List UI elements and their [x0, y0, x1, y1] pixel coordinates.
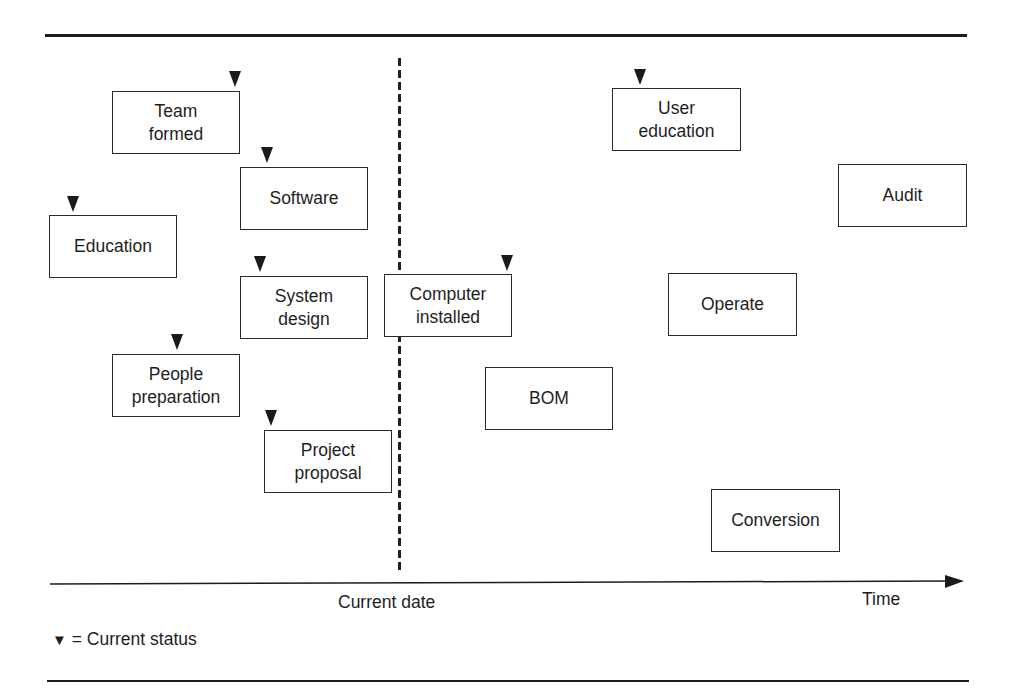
task-box-user-education: User education [612, 88, 741, 151]
task-box-software: Software [240, 167, 368, 230]
current-status-marker-icon [265, 410, 277, 426]
time-arrow-icon [945, 575, 964, 588]
task-box-system-design: System design [240, 276, 368, 339]
time-axis-label: Time [862, 589, 900, 610]
current-date-label: Current date [338, 592, 435, 613]
status-marker-icon: ▼ [52, 631, 67, 648]
task-box-conversion: Conversion [711, 489, 840, 552]
task-box-computer-installed: Computer installed [384, 274, 512, 337]
task-box-operate: Operate [668, 273, 797, 336]
current-status-marker-icon [67, 196, 79, 212]
task-box-people-preparation: People preparation [112, 354, 240, 417]
current-status-marker-icon [229, 71, 241, 87]
task-box-project-proposal: Project proposal [264, 430, 392, 493]
task-box-team-formed: Team formed [112, 91, 240, 154]
task-box-audit: Audit [838, 164, 967, 227]
current-status-marker-icon [261, 147, 273, 163]
legend-text: = Current status [72, 629, 197, 649]
current-status-marker-icon [171, 334, 183, 350]
task-box-bom: BOM [485, 367, 613, 430]
current-status-marker-icon [634, 69, 646, 85]
current-status-marker-icon [254, 256, 266, 272]
current-status-marker-icon [501, 255, 513, 271]
legend: ▼ = Current status [52, 629, 197, 650]
task-box-education: Education [49, 215, 177, 278]
